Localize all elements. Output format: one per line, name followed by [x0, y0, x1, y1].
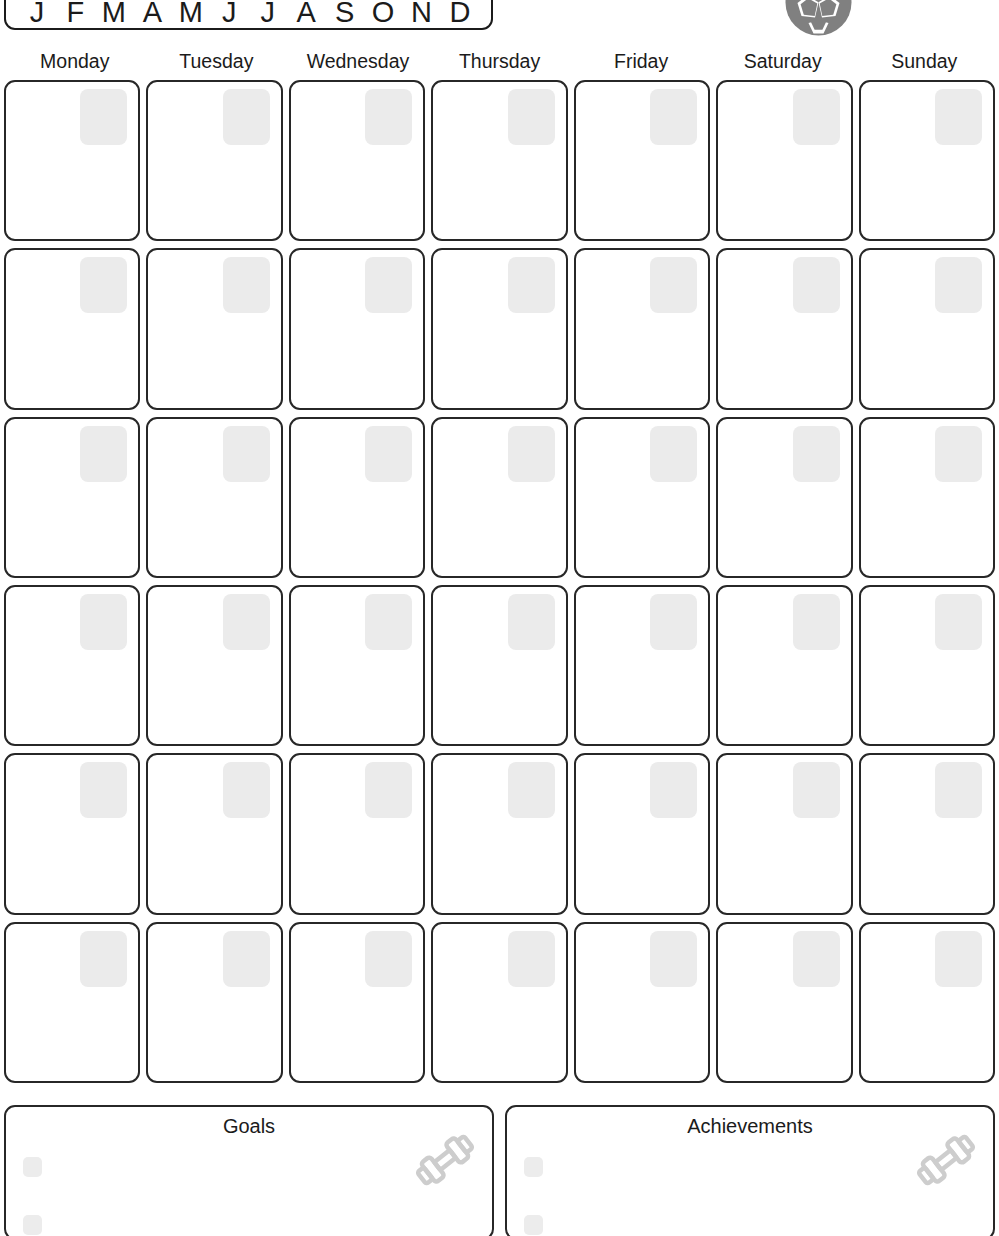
- date-number-placeholder[interactable]: [365, 594, 412, 650]
- calendar-day-cell[interactable]: [431, 922, 567, 1083]
- calendar-day-cell[interactable]: [574, 248, 710, 409]
- date-number-placeholder[interactable]: [80, 762, 127, 818]
- date-number-placeholder[interactable]: [650, 257, 697, 313]
- date-number-placeholder[interactable]: [935, 931, 982, 987]
- date-number-placeholder[interactable]: [223, 257, 270, 313]
- calendar-day-cell[interactable]: [859, 753, 995, 914]
- date-number-placeholder[interactable]: [80, 931, 127, 987]
- month-letter-apr[interactable]: A: [135, 0, 169, 27]
- calendar-day-cell[interactable]: [574, 922, 710, 1083]
- date-number-placeholder[interactable]: [650, 762, 697, 818]
- calendar-day-cell[interactable]: [431, 248, 567, 409]
- calendar-day-cell[interactable]: [716, 753, 852, 914]
- month-letter-sep[interactable]: S: [328, 0, 362, 27]
- calendar-day-cell[interactable]: [574, 585, 710, 746]
- calendar-day-cell[interactable]: [716, 417, 852, 578]
- calendar-day-cell[interactable]: [4, 585, 140, 746]
- date-number-placeholder[interactable]: [365, 762, 412, 818]
- date-number-placeholder[interactable]: [935, 89, 982, 145]
- calendar-day-cell[interactable]: [289, 417, 425, 578]
- date-number-placeholder[interactable]: [508, 762, 555, 818]
- date-number-placeholder[interactable]: [793, 426, 840, 482]
- calendar-day-cell[interactable]: [289, 80, 425, 241]
- calendar-day-cell[interactable]: [4, 248, 140, 409]
- date-number-placeholder[interactable]: [80, 426, 127, 482]
- date-number-placeholder[interactable]: [508, 426, 555, 482]
- date-number-placeholder[interactable]: [365, 257, 412, 313]
- calendar-day-cell[interactable]: [431, 753, 567, 914]
- calendar-day-cell[interactable]: [859, 417, 995, 578]
- month-letter-aug[interactable]: A: [289, 0, 323, 27]
- month-letter-may[interactable]: M: [174, 0, 208, 27]
- calendar-day-cell[interactable]: [716, 248, 852, 409]
- date-number-placeholder[interactable]: [793, 594, 840, 650]
- calendar-day-cell[interactable]: [146, 585, 282, 746]
- calendar-day-cell[interactable]: [4, 753, 140, 914]
- date-number-placeholder[interactable]: [935, 257, 982, 313]
- date-number-placeholder[interactable]: [80, 257, 127, 313]
- goals-checkbox[interactable]: [23, 1215, 42, 1235]
- date-number-placeholder[interactable]: [365, 89, 412, 145]
- month-letter-feb[interactable]: F: [58, 0, 92, 27]
- goals-checkbox[interactable]: [23, 1157, 42, 1177]
- date-number-placeholder[interactable]: [650, 931, 697, 987]
- calendar-day-cell[interactable]: [431, 80, 567, 241]
- date-number-placeholder[interactable]: [650, 426, 697, 482]
- date-number-placeholder[interactable]: [80, 594, 127, 650]
- date-number-placeholder[interactable]: [508, 594, 555, 650]
- calendar-day-cell[interactable]: [574, 417, 710, 578]
- calendar-day-cell[interactable]: [146, 248, 282, 409]
- calendar-day-cell[interactable]: [716, 922, 852, 1083]
- calendar-day-cell[interactable]: [431, 417, 567, 578]
- calendar-day-cell[interactable]: [574, 80, 710, 241]
- calendar-day-cell[interactable]: [859, 585, 995, 746]
- month-selector[interactable]: J F M A M J J A S O N D: [4, 0, 493, 30]
- date-number-placeholder[interactable]: [223, 426, 270, 482]
- calendar-day-cell[interactable]: [431, 585, 567, 746]
- date-number-placeholder[interactable]: [793, 257, 840, 313]
- calendar-day-cell[interactable]: [289, 753, 425, 914]
- date-number-placeholder[interactable]: [80, 89, 127, 145]
- date-number-placeholder[interactable]: [935, 594, 982, 650]
- date-number-placeholder[interactable]: [365, 931, 412, 987]
- date-number-placeholder[interactable]: [365, 426, 412, 482]
- date-number-placeholder[interactable]: [793, 89, 840, 145]
- month-letter-jul[interactable]: J: [251, 0, 285, 27]
- calendar-day-cell[interactable]: [4, 80, 140, 241]
- calendar-day-cell[interactable]: [146, 80, 282, 241]
- goals-panel[interactable]: Goals: [4, 1105, 494, 1236]
- calendar-day-cell[interactable]: [146, 417, 282, 578]
- month-letter-dec[interactable]: D: [443, 0, 477, 27]
- calendar-day-cell[interactable]: [289, 922, 425, 1083]
- calendar-day-cell[interactable]: [716, 80, 852, 241]
- date-number-placeholder[interactable]: [650, 89, 697, 145]
- date-number-placeholder[interactable]: [223, 594, 270, 650]
- month-letter-oct[interactable]: O: [366, 0, 400, 27]
- calendar-day-cell[interactable]: [289, 585, 425, 746]
- calendar-day-cell[interactable]: [4, 417, 140, 578]
- date-number-placeholder[interactable]: [508, 257, 555, 313]
- date-number-placeholder[interactable]: [793, 931, 840, 987]
- month-letter-nov[interactable]: N: [405, 0, 439, 27]
- calendar-day-cell[interactable]: [4, 922, 140, 1083]
- calendar-day-cell[interactable]: [859, 80, 995, 241]
- month-letter-jun[interactable]: J: [212, 0, 246, 27]
- month-letter-mar[interactable]: M: [97, 0, 131, 27]
- date-number-placeholder[interactable]: [508, 89, 555, 145]
- calendar-day-cell[interactable]: [289, 248, 425, 409]
- achievements-panel[interactable]: Achievements: [505, 1105, 995, 1236]
- calendar-day-cell[interactable]: [859, 922, 995, 1083]
- calendar-day-cell[interactable]: [716, 585, 852, 746]
- date-number-placeholder[interactable]: [223, 762, 270, 818]
- calendar-day-cell[interactable]: [146, 922, 282, 1083]
- calendar-day-cell[interactable]: [574, 753, 710, 914]
- date-number-placeholder[interactable]: [508, 931, 555, 987]
- month-letter-jan[interactable]: J: [20, 0, 54, 27]
- date-number-placeholder[interactable]: [223, 931, 270, 987]
- date-number-placeholder[interactable]: [223, 89, 270, 145]
- calendar-day-cell[interactable]: [859, 248, 995, 409]
- date-number-placeholder[interactable]: [935, 762, 982, 818]
- achievements-checkbox[interactable]: [524, 1215, 543, 1235]
- calendar-day-cell[interactable]: [146, 753, 282, 914]
- achievements-checkbox[interactable]: [524, 1157, 543, 1177]
